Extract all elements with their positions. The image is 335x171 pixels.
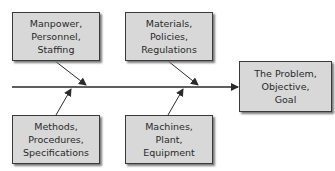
cause-line: Equipment: [143, 146, 195, 159]
bone-bottom-middle: [168, 89, 183, 115]
bone-bottom-left: [56, 89, 71, 115]
bone-top-middle: [168, 61, 198, 85]
cause-box-machines: Machines, Plant, Equipment: [125, 115, 213, 164]
cause-line: Specifications: [23, 146, 89, 159]
effect-line: Objective,: [261, 80, 309, 93]
cause-box-materials: Materials, Policies, Regulations: [125, 12, 213, 61]
cause-line: Policies,: [150, 30, 188, 43]
bone-top-left: [55, 61, 86, 85]
cause-box-manpower: Manpower, Personnel, Staffing: [12, 12, 100, 61]
cause-line: Plant,: [156, 133, 183, 146]
cause-line: Manpower,: [30, 17, 82, 30]
cause-line: Staffing: [38, 43, 75, 56]
effect-box-problem: The Problem, Objective, Goal: [239, 61, 332, 112]
cause-line: Machines,: [145, 120, 193, 133]
cause-line: Regulations: [141, 43, 197, 56]
cause-line: Methods,: [34, 120, 78, 133]
cause-box-methods: Methods, Procedures, Specifications: [12, 115, 100, 164]
cause-line: Materials,: [146, 17, 193, 30]
effect-line: The Problem,: [254, 67, 317, 80]
cause-line: Personnel,: [31, 30, 80, 43]
cause-line: Procedures,: [28, 133, 84, 146]
effect-line: Goal: [275, 93, 297, 106]
